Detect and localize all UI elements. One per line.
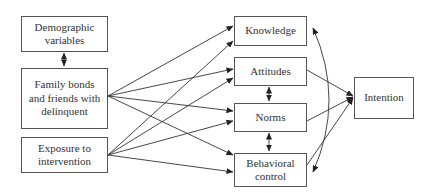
edge-family-knowledge: [108, 26, 233, 96]
node-intention: Intention: [354, 77, 414, 119]
node-label: Knowledge: [245, 24, 296, 38]
node-demographic-variables: Demographic variables: [21, 16, 108, 52]
node-label: Norms: [256, 111, 286, 125]
node-family-bonds: Family bonds and friends with delinquent: [21, 68, 108, 129]
node-label: Attitudes: [250, 65, 290, 79]
edge-family-behavioral: [108, 96, 233, 155]
edge-family-attitudes: [108, 69, 233, 96]
node-label: Demographic variables: [30, 21, 100, 48]
node-label: Behavioral control: [241, 157, 301, 184]
edge-attitudes-intention: [307, 70, 353, 96]
node-label: Intention: [364, 91, 404, 105]
edge-norms-intention: [307, 97, 353, 121]
node-knowledge: Knowledge: [234, 16, 307, 46]
edge-knowledge-behavioral: [313, 28, 329, 172]
edge-exposure-behavioral: [108, 155, 233, 172]
node-attitudes: Attitudes: [234, 57, 307, 86]
edge-behavioral-intention: [307, 98, 353, 165]
node-norms: Norms: [234, 103, 307, 132]
node-label: Family bonds and friends with delinquent: [27, 78, 102, 119]
node-label: Exposure to intervention: [30, 142, 100, 169]
node-exposure-to-intervention: Exposure to intervention: [21, 137, 108, 173]
node-behavioral-control: Behavioral control: [234, 153, 307, 187]
edge-exposure-attitudes: [108, 78, 233, 155]
